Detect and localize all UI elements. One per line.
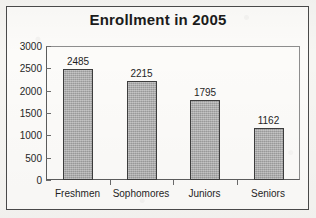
y-axis-label-3000: 3000 xyxy=(2,41,42,52)
chart-image: Enrollment in 2005 3000 2500 2000 1500 1… xyxy=(0,0,316,218)
y-axis-label-500: 500 xyxy=(2,152,42,163)
y-tick-1000 xyxy=(46,135,51,136)
y-tick-0 xyxy=(46,180,51,181)
bar-value-juniors: 1795 xyxy=(175,87,235,98)
bar-value-freshmen: 2485 xyxy=(48,56,108,67)
x-tick-1 xyxy=(110,180,111,185)
y-tick-1500 xyxy=(46,113,51,114)
y-axis-label-2500: 2500 xyxy=(2,63,42,74)
x-tick-2 xyxy=(173,180,174,185)
bar-value-sophomores: 2215 xyxy=(112,68,172,79)
bar-seniors xyxy=(254,128,284,180)
x-tick-3 xyxy=(237,180,238,185)
y-axis-label-2000: 2000 xyxy=(2,85,42,96)
y-tick-500 xyxy=(46,158,51,159)
bar-juniors xyxy=(190,100,220,180)
y-axis-label-0: 0 xyxy=(2,175,42,186)
x-axis-label-seniors: Seniors xyxy=(231,188,306,199)
bar-value-seniors: 1162 xyxy=(239,115,299,126)
bar-sophomores xyxy=(127,81,157,180)
y-tick-2500 xyxy=(46,68,51,69)
bar-freshmen xyxy=(63,69,93,180)
y-axis-label-1500: 1500 xyxy=(2,108,42,119)
chart-title: Enrollment in 2005 xyxy=(0,11,316,28)
y-tick-3000 xyxy=(46,46,51,47)
y-tick-2000 xyxy=(46,91,51,92)
plot-area: 3000 2500 2000 1500 1000 500 0 2485 2215… xyxy=(46,46,300,180)
y-axis-label-1000: 1000 xyxy=(2,130,42,141)
